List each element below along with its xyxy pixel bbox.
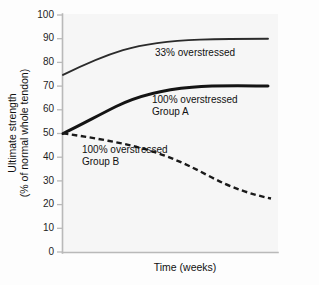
annotation-33-overstressed: 33% overstressed [155,47,235,58]
y-tick-label-20: 20 [43,198,55,209]
chart-canvas: 100 90 80 70 60 50 40 30 20 10 0 Ultimat… [0,0,319,285]
x-axis-title: Time (weeks) [154,261,217,273]
y-tick-label-0: 0 [48,246,54,257]
y-axis-title-line2: (% of normal whole tendon) [18,69,30,197]
annotation-group-b-line1: 100% overstressed [82,144,168,155]
annotation-group-a-line2: Group A [152,106,189,117]
y-tick-label-100: 100 [37,9,54,20]
y-tick-label-10: 10 [43,222,55,233]
y-axis-title-line1: Ultimate strength [6,93,18,173]
y-tick-label-30: 30 [43,175,55,186]
annotation-group-b-line2: Group B [82,156,120,167]
y-tick-label-60: 60 [43,103,55,114]
y-tick-label-90: 90 [43,32,55,43]
figure-container: 100 90 80 70 60 50 40 30 20 10 0 Ultimat… [0,0,319,285]
y-tick-label-40: 40 [43,151,55,162]
y-tick-label-70: 70 [43,80,55,91]
y-axis-title: Ultimate strength (% of normal whole ten… [6,69,30,197]
y-tick-label-80: 80 [43,56,55,67]
y-axis: 100 90 80 70 60 50 40 30 20 10 0 [37,9,62,257]
y-tick-label-50: 50 [43,127,55,138]
annotation-group-a-line1: 100% overstressed [152,94,238,105]
